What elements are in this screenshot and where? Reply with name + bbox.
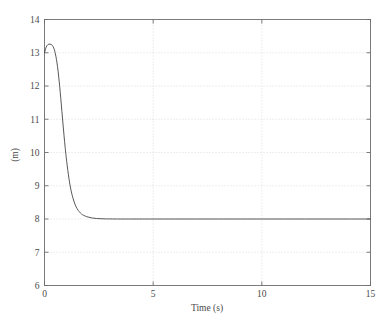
x-tick-label: 5 [151,289,156,299]
chart-background [0,0,391,322]
line-chart: 67891011121314051015 Time (s) (m) [0,0,391,322]
y-tick-label: 12 [30,81,40,91]
y-axis-title: (m) [10,148,21,162]
x-tick-label: 0 [42,289,47,299]
chart-figure: 67891011121314051015 Time (s) (m) [0,0,391,322]
x-tick-label: 10 [257,289,267,299]
y-tick-label: 14 [30,15,40,25]
y-tick-label: 10 [30,148,40,158]
y-tick-label: 11 [30,115,39,125]
y-tick-label: 8 [35,214,40,224]
x-tick-label: 15 [366,289,376,299]
y-tick-label: 7 [35,248,40,258]
y-tick-label: 13 [30,48,40,58]
y-tick-label: 9 [35,181,40,191]
x-axis-title: Time (s) [191,303,223,314]
y-tick-label: 6 [35,281,40,291]
